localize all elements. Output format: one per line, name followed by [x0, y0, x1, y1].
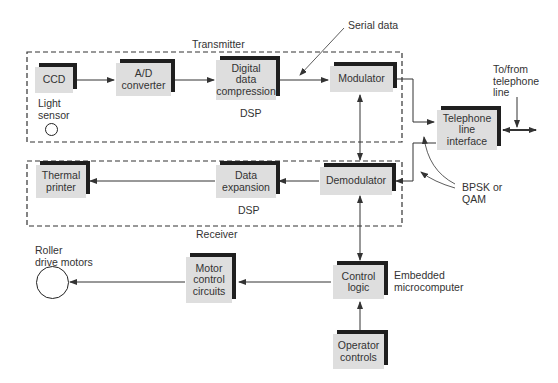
telephone-interface-label: Telephone line interface: [443, 113, 491, 148]
serial-data-label: Serial data: [348, 20, 398, 32]
operator-controls-block: Operator controls: [333, 334, 384, 369]
ad-converter-block: A/D converter: [116, 63, 171, 96]
ccd-block: CCD: [35, 67, 73, 93]
control-logic-label: Control logic: [342, 271, 376, 294]
roller-motor-icon: [36, 266, 69, 299]
compression-label: Digital data compression: [216, 63, 276, 98]
receiver-label: Receiver: [196, 229, 237, 241]
ad-converter-label: A/D converter: [122, 68, 166, 91]
modulator-label: Modulator: [338, 73, 385, 85]
to-from-line-label: To/from telephone line: [493, 64, 539, 99]
demodulator-label: Demodulator: [326, 175, 386, 187]
motor-control-label: Motor control circuits: [193, 263, 226, 298]
expansion-block: Data expansion: [216, 165, 276, 198]
motor-control-block: Motor control circuits: [186, 257, 232, 303]
operator-controls-label: Operator controls: [338, 340, 379, 363]
expansion-label: Data expansion: [222, 170, 270, 193]
roller-motors-label: Roller drive motors: [35, 245, 93, 268]
receiver-dsp-label: DSP: [238, 205, 260, 217]
embedded-microcomputer-label: Embedded microcomputer: [394, 270, 463, 293]
thermal-printer-label: Thermal printer: [42, 170, 81, 193]
telephone-interface-block: Telephone line interface: [437, 110, 497, 150]
compression-block: Digital data compression: [216, 60, 276, 100]
light-sensor-label: Light sensor: [38, 98, 70, 121]
modulator-block: Modulator: [330, 66, 393, 92]
thermal-printer-block: Thermal printer: [36, 165, 86, 198]
light-sensor-icon: [45, 123, 58, 136]
ccd-label: CCD: [43, 74, 66, 86]
transmitter-dsp-label: DSP: [240, 108, 262, 120]
control-logic-block: Control logic: [333, 265, 384, 299]
bpsk-qam-label: BPSK or QAM: [462, 182, 502, 205]
demodulator-block: Demodulator: [320, 167, 392, 195]
transmitter-label: Transmitter: [192, 39, 245, 51]
